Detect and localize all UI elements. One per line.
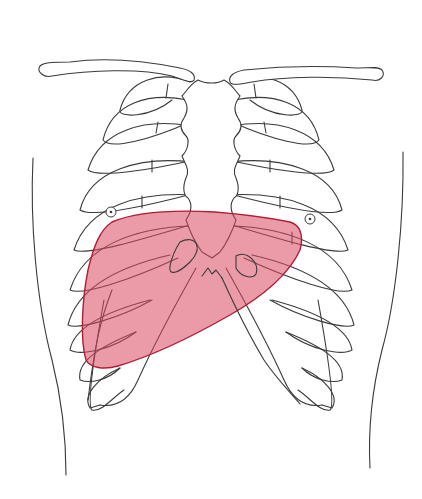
right-nipple-marker: [305, 214, 315, 224]
anatomy-figure: Anterior thorax with liver projection: [0, 0, 422, 499]
liver-region: [82, 211, 301, 368]
thorax-illustration: [0, 0, 422, 499]
clavicles: [39, 60, 383, 84]
left-nipple-marker: [106, 207, 116, 217]
